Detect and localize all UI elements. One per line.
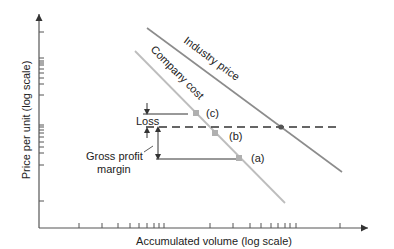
loss-annotation: Loss [136,103,188,138]
y-axis-ticks [39,32,44,201]
y-axis-label: Price per unit (log scale) [20,61,32,180]
y-axis: Price per unit (log scale) [20,14,44,228]
point-c-label: (c) [206,107,219,119]
loss-label: Loss [136,115,160,127]
intersection-point [278,124,283,129]
x-axis-label: Accumulated volume (log scale) [136,235,292,247]
industry-price-series: Industry price [147,28,342,172]
point-b-marker [212,130,218,136]
gross-profit-label-line2: margin [97,163,131,175]
point-a-label: (a) [251,152,264,164]
cost-points: (c) (b) (a) [193,107,264,164]
x-axis-ticks [79,223,340,228]
learning-curve-diagram: Price per unit (log scale) Accumulated [0,0,394,249]
gross-profit-label-line1: Gross profit [86,150,143,162]
point-a-marker [236,155,242,161]
x-axis: Accumulated volume (log scale) [39,223,368,247]
point-b-label: (b) [229,130,242,142]
point-c-marker [193,110,199,116]
